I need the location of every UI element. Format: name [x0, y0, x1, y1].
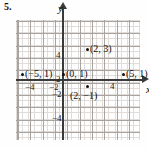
y-tick-label-neg4: −4 [52, 114, 62, 123]
coordinate-plane: x y −4 −2 4 4 2 −2 −4 (−5, 1) (0, 1) (5,… [16, 20, 140, 140]
data-point-label: (2, 3) [90, 44, 112, 54]
data-point [86, 85, 89, 88]
x-tick-label-neg4: −4 [25, 83, 35, 92]
data-point [86, 48, 89, 51]
y-axis-label: y [58, 3, 63, 14]
x-axis [16, 79, 144, 81]
data-point [62, 73, 65, 76]
graph-figure: 5. x y −4 −2 4 4 2 −2 −4 (−5, 1) (0, 1) … [0, 0, 149, 149]
data-point-label: (0, 1) [66, 69, 88, 79]
data-point [21, 73, 24, 76]
data-point-label: (5, 1) [126, 69, 148, 79]
data-point [122, 73, 125, 76]
y-tick-label-neg2: −2 [52, 90, 62, 99]
data-point-label: (2, −1) [70, 91, 97, 101]
x-tick-label-4: 4 [110, 82, 115, 91]
y-tick-label-4: 4 [56, 51, 61, 60]
problem-number: 5. [4, 2, 12, 12]
x-axis-label: x [146, 84, 149, 95]
y-tick-label-2: 2 [56, 75, 61, 84]
data-point-label: (−5, 1) [25, 69, 52, 79]
